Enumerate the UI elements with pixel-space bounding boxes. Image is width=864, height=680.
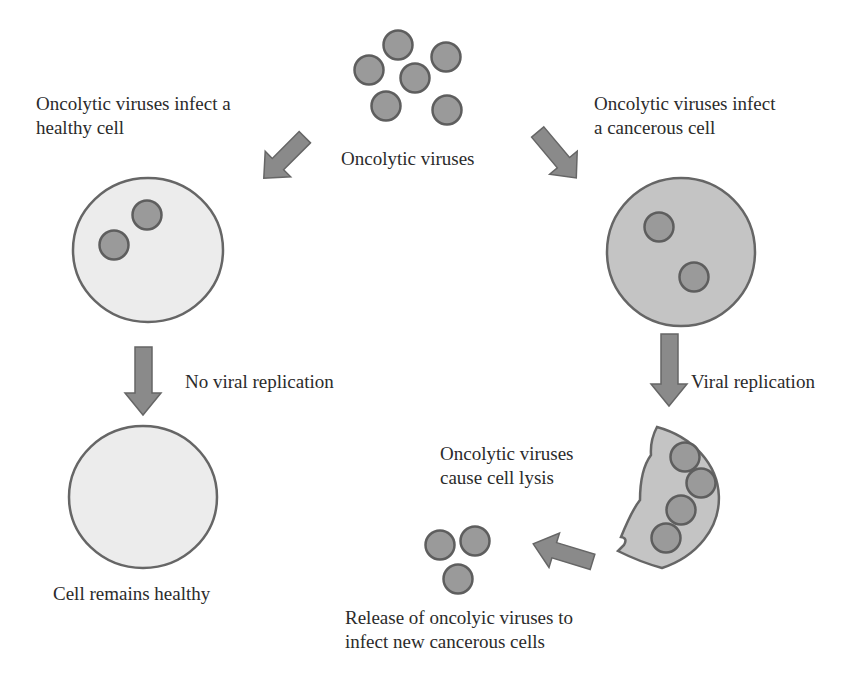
label-replication: Viral replication bbox=[691, 370, 815, 394]
label-no-replication: No viral replication bbox=[185, 370, 334, 394]
cancer-cell-infected bbox=[607, 178, 755, 326]
arrow-no-replication bbox=[125, 347, 161, 415]
label-healthy-infect: Oncolytic viruses infect a healthy cell bbox=[36, 92, 231, 140]
label-oncolytic-viruses: Oncolytic viruses bbox=[341, 147, 475, 171]
label-cancer-infect-line2: a cancerous cell bbox=[594, 116, 776, 140]
label-cell-lysis-line2: cause cell lysis bbox=[440, 466, 574, 490]
label-cell-healthy: Cell remains healthy bbox=[53, 582, 210, 606]
arrow-to-cancer-cell bbox=[524, 120, 590, 189]
healthy-cell-final bbox=[69, 426, 217, 568]
healthy-cell-infected bbox=[73, 178, 223, 322]
arrow-to-healthy-cell bbox=[251, 124, 317, 190]
label-cell-lysis: Oncolytic viruses cause cell lysis bbox=[440, 442, 574, 490]
label-healthy-infect-line1: Oncolytic viruses infect a bbox=[36, 92, 231, 116]
label-cell-lysis-line1: Oncolytic viruses bbox=[440, 442, 574, 466]
lysed-cancer-cell bbox=[618, 427, 719, 568]
arrow-viral-replication bbox=[651, 334, 687, 406]
released-viruses bbox=[426, 527, 490, 594]
label-release-line1: Release of oncolyic viruses to bbox=[345, 606, 573, 630]
label-release: Release of oncolyic viruses to infect ne… bbox=[345, 606, 573, 654]
label-cancer-infect-line1: Oncolytic viruses infect bbox=[594, 92, 776, 116]
label-healthy-infect-line2: healthy cell bbox=[36, 116, 231, 140]
label-release-line2: infect new cancerous cells bbox=[345, 630, 573, 654]
arrow-release bbox=[528, 527, 598, 580]
virus-cluster bbox=[355, 31, 462, 125]
label-cancer-infect: Oncolytic viruses infect a cancerous cel… bbox=[594, 92, 776, 140]
